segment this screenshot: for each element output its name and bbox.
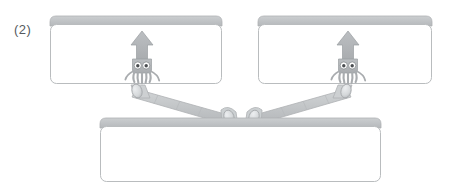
lower-base-panel[interactable] [100,118,381,182]
diagram-svg [0,0,455,195]
figure-canvas: (2) [0,0,455,195]
upper-left-panel[interactable] [50,16,222,84]
